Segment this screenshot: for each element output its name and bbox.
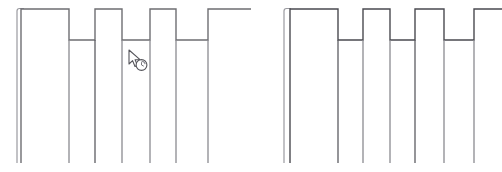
screenshot-canvas: [0, 0, 502, 172]
right-waveform-panel: [251, 0, 502, 172]
right-waveform-svg: [251, 0, 502, 172]
left-square-wave-profile: [21, 9, 251, 163]
right-square-wave-profile: [290, 9, 502, 163]
left-waveform-panel: [0, 0, 251, 172]
left-waveform-svg: [0, 0, 251, 172]
